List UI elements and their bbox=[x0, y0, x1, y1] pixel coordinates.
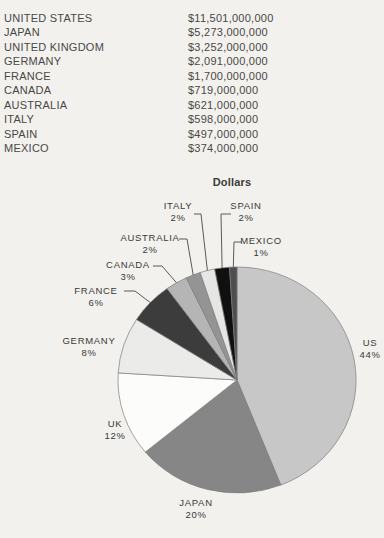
pie-label-spain: SPAIN2% bbox=[230, 200, 261, 223]
pie-label-germany: GERMANY8% bbox=[63, 335, 116, 358]
pie-label-france: FRANCE6% bbox=[74, 285, 117, 308]
leader-line-australia bbox=[179, 239, 193, 275]
pie-label-australia: AUSTRALIA2% bbox=[120, 232, 179, 255]
figure-page: UNITED STATES$11,501,000,000JAPAN$5,273,… bbox=[0, 0, 384, 538]
leader-line-spain bbox=[221, 214, 231, 268]
leader-line-canada bbox=[153, 266, 176, 283]
pie-chart: US44%JAPAN20%UK12%GERMANY8%FRANCE6%CANAD… bbox=[0, 0, 384, 538]
pie-label-uk: UK12% bbox=[104, 418, 125, 441]
pie-label-us: US44% bbox=[359, 337, 380, 360]
pie-label-japan: JAPAN20% bbox=[179, 497, 212, 520]
leader-line-france bbox=[124, 291, 150, 303]
leader-line-italy bbox=[194, 214, 207, 271]
pie-label-mexico: MEXICO1% bbox=[240, 235, 282, 258]
pie-label-canada: CANADA3% bbox=[106, 259, 150, 282]
pie-label-italy: ITALY2% bbox=[164, 200, 193, 223]
